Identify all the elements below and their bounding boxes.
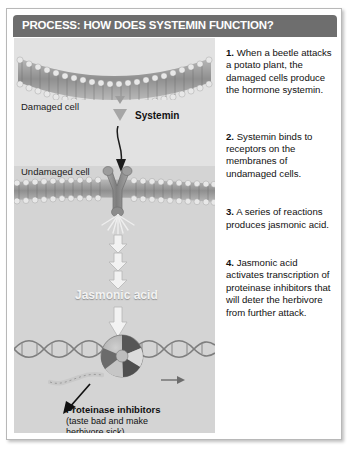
- proteinase-inhibitors-title: Proteinase inhibitors: [66, 404, 161, 415]
- steps-column: 1. When a beetle attacks a potato plant,…: [226, 47, 334, 334]
- systemin-label: Systemin: [135, 110, 179, 121]
- page-title: PROCESS: HOW DOES SYSTEMIN FUNCTION?: [22, 19, 274, 31]
- figure-container: PROCESS: HOW DOES SYSTEMIN FUNCTION?: [6, 8, 342, 440]
- step-1-number: 1.: [226, 47, 234, 58]
- step-3-number: 3.: [226, 206, 234, 217]
- step-4-text: Jasmonic acid activates transcription of…: [226, 257, 331, 318]
- step-1: 1. When a beetle attacks a potato plant,…: [226, 47, 334, 97]
- triple-arrow-down-icon: [104, 234, 132, 292]
- step-2-number: 2.: [226, 131, 234, 142]
- damaged-cell-membrane: [16, 52, 213, 100]
- proteinase-inhibitors-sub-line1: (taste bad and make: [66, 416, 148, 427]
- step-3-text: A series of reactions produces jasmonic …: [226, 206, 329, 229]
- arrow-right-icon: [160, 374, 186, 386]
- header-bar: PROCESS: HOW DOES SYSTEMIN FUNCTION?: [13, 15, 337, 37]
- diagram-panel: Damaged cell Systemin Undamaged cell: [14, 38, 215, 433]
- step-4-number: 4.: [226, 257, 234, 268]
- proteinase-inhibitors-sub-line2: herbivore sick): [66, 427, 125, 433]
- jasmonic-acid-label: Jasmonic acid: [75, 288, 158, 302]
- damaged-cell-label: Damaged cell: [21, 101, 79, 112]
- triangle-down-icon: [111, 108, 129, 124]
- radiating-burst-icon: [94, 214, 142, 236]
- step-4: 4. Jasmonic acid activates transcription…: [226, 257, 334, 319]
- step-3: 3. A series of reactions produces jasmon…: [226, 206, 334, 231]
- step-1-text: When a beetle attacks a potato plant, th…: [226, 47, 332, 95]
- step-2: 2. Systemin binds to receptors on the me…: [226, 131, 334, 181]
- step-2-text: Systemin binds to receptors on the membr…: [226, 131, 312, 179]
